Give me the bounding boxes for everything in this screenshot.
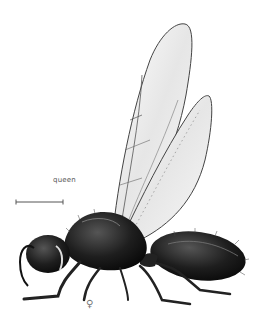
caste-label: queen <box>53 176 76 184</box>
female-symbol: ♀ <box>86 298 93 309</box>
scale-bar <box>16 200 63 205</box>
illustration-canvas: queen ♀ <box>0 0 266 331</box>
abdomen <box>147 226 249 287</box>
insect-drawing <box>0 0 266 331</box>
head <box>26 235 70 273</box>
